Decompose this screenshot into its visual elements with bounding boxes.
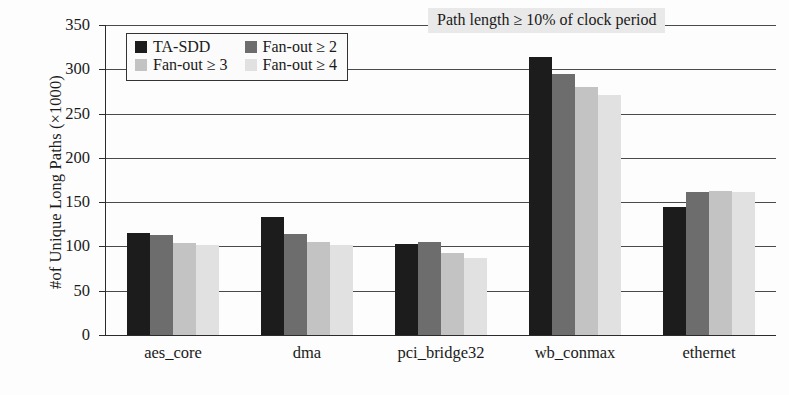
- legend-entry: Fan-out ≥ 2: [245, 39, 338, 56]
- x-axis-tick-label: dma: [293, 343, 321, 363]
- bar: [441, 253, 464, 335]
- bar: [663, 207, 686, 335]
- y-axis-tick-label: 350: [65, 17, 90, 34]
- x-axis-tick-label: pci_bridge32: [397, 343, 484, 363]
- bar: [709, 191, 732, 335]
- bar: [330, 245, 353, 335]
- bar: [395, 244, 418, 335]
- legend-swatch-icon: [245, 59, 257, 71]
- bar: [261, 217, 284, 335]
- y-axis-tick: 250: [99, 114, 106, 115]
- legend-label: Fan-out ≥ 3: [153, 57, 228, 74]
- y-axis-tick: 300: [99, 69, 106, 70]
- x-axis-tick-label: ethernet: [682, 343, 735, 363]
- bar: [127, 233, 150, 335]
- bar: [464, 258, 487, 335]
- bar: [686, 192, 709, 335]
- y-axis-tick: 100: [99, 246, 106, 247]
- y-axis-tick-label: 150: [65, 194, 90, 211]
- y-axis-tick: 0: [99, 335, 106, 336]
- legend-entry: Fan-out ≥ 3: [135, 57, 228, 74]
- y-axis-tick: 150: [99, 202, 106, 203]
- bar: [173, 243, 196, 335]
- y-axis-tick-label: 100: [65, 239, 90, 256]
- bar: [598, 95, 621, 335]
- y-axis-tick: 50: [99, 291, 106, 292]
- annotation-path-length: Path length ≥ 10% of clock period: [428, 8, 665, 33]
- bar: [529, 57, 552, 335]
- bar: [418, 242, 441, 335]
- bar-chart-figure: #of Unique Long Paths (×1000) 3503002502…: [0, 0, 789, 395]
- y-axis-tick-label: 250: [65, 106, 90, 123]
- y-axis-title: #of Unique Long Paths (×1000): [46, 22, 66, 342]
- legend-label: Fan-out ≥ 2: [263, 39, 338, 56]
- y-axis-tick: 350: [99, 25, 106, 26]
- y-axis-tick-label: 0: [82, 327, 90, 344]
- y-axis-tick-label: 50: [74, 283, 91, 300]
- bar-group: [663, 25, 755, 335]
- y-axis-tick-label: 200: [65, 150, 90, 167]
- bar: [196, 245, 219, 335]
- legend-entry: TA-SDD: [135, 39, 228, 56]
- legend-label: Fan-out ≥ 4: [263, 57, 338, 74]
- bar: [575, 87, 598, 335]
- bar: [552, 74, 575, 335]
- bar: [732, 192, 755, 335]
- bar-group: [395, 25, 487, 335]
- chart-legend: TA-SDDFan-out ≥ 2Fan-out ≥ 3Fan-out ≥ 4: [126, 33, 348, 81]
- y-axis-tick: 200: [99, 158, 106, 159]
- legend-swatch-icon: [245, 41, 257, 53]
- x-axis-tick-label: aes_core: [144, 343, 202, 363]
- legend-entry: Fan-out ≥ 4: [245, 57, 338, 74]
- bar: [150, 235, 173, 335]
- legend-swatch-icon: [135, 59, 147, 71]
- legend-swatch-icon: [135, 41, 147, 53]
- plot-area: 350300250200150100500 aes_coredmapci_bri…: [105, 25, 776, 336]
- x-axis-tick-label: wb_conmax: [535, 343, 616, 363]
- bar: [307, 242, 330, 335]
- bar-group: [529, 25, 621, 335]
- y-axis-tick-label: 300: [65, 62, 90, 78]
- bar: [284, 234, 307, 335]
- legend-label: TA-SDD: [153, 39, 210, 56]
